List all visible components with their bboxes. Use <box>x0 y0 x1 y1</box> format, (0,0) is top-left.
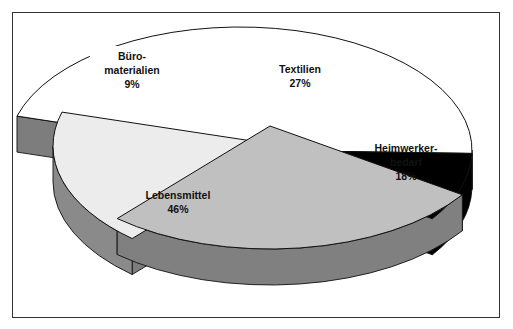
slice-name-label: bedarf <box>390 156 423 168</box>
slice-name-label: materialien <box>104 64 159 76</box>
slice-name-label: Lebensmittel <box>146 189 211 201</box>
slice-name-label: Textilien <box>279 63 321 75</box>
slice-name-label: Büro- <box>118 50 146 62</box>
slice-value-label: 46% <box>167 203 189 215</box>
data-label-büromaterialien: Büro-materialien9% <box>90 46 174 94</box>
pie-chart: Lebensmittel46%Büro-materialien9%Textili… <box>0 0 513 329</box>
data-label-textilien: Textilien27% <box>264 59 336 93</box>
slice-name-label: Heimwerker- <box>374 142 438 154</box>
slice-value-label: 27% <box>289 77 311 89</box>
slice-value-label: 18% <box>395 170 417 182</box>
slice-value-label: 9% <box>124 78 140 90</box>
